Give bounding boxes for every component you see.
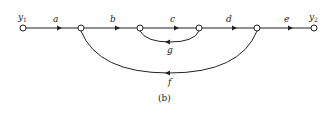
- edge-d-label: d: [226, 14, 232, 24]
- figure-caption: (b): [158, 93, 171, 103]
- edge-a-label: a: [53, 14, 58, 24]
- node-y2: [311, 25, 317, 31]
- edge-c-label: c: [170, 14, 175, 24]
- node-y1-label: y1: [17, 12, 27, 23]
- edge-f-label: f: [167, 77, 173, 87]
- node-2: [78, 25, 84, 31]
- arrow-b-icon: [115, 26, 120, 31]
- arrow-a-icon: [57, 26, 62, 31]
- node-5: [254, 25, 260, 31]
- arrow-e-icon: [288, 26, 293, 31]
- edge-e-label: e: [284, 14, 289, 24]
- node-y2-label: y2: [308, 12, 318, 23]
- node-y1: [20, 25, 26, 31]
- node-3: [137, 25, 143, 31]
- arrow-c-icon: [174, 26, 179, 31]
- node-4: [196, 25, 202, 31]
- arrow-g-icon: [165, 40, 170, 45]
- arrow-d-icon: [232, 26, 237, 31]
- signal-flow-graph: y1 y2 a b c d e g f (b): [0, 0, 334, 114]
- edge-b-label: b: [110, 14, 116, 24]
- edge-g-label: g: [167, 45, 173, 55]
- arrow-f-icon: [165, 71, 170, 76]
